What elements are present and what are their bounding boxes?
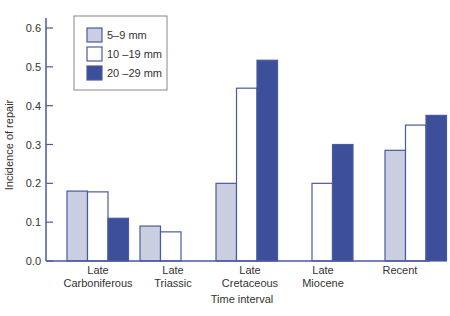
y-axis-title: Incidence of repair (3, 99, 15, 190)
y-tick-label: 0.4 (26, 100, 41, 112)
bar (406, 125, 427, 261)
y-tick-label: 0.0 (26, 255, 41, 267)
category-label: Late (239, 264, 260, 276)
y-tick-label: 0.5 (26, 61, 41, 73)
y-tick-label: 0.3 (26, 139, 41, 151)
bar (67, 191, 88, 261)
x-axis: LateCarboniferousLateTriassicLateCretace… (46, 261, 430, 289)
category-label: Late (87, 264, 108, 276)
category-label: Late (162, 264, 183, 276)
bar (385, 150, 406, 261)
bar (237, 88, 258, 261)
bar (108, 218, 129, 261)
legend-label: 20 –29 mm (107, 67, 162, 79)
x-axis-title: Time interval (211, 293, 274, 305)
category-label: Miocene (302, 277, 344, 289)
y-tick-label: 0.6 (26, 22, 41, 34)
category-label: Carboniferous (63, 277, 133, 289)
y-axis: 0.00.10.20.30.40.50.6 (26, 18, 53, 267)
legend-label: 10 –19 mm (107, 48, 162, 60)
legend-swatch (87, 47, 102, 61)
bar (216, 183, 237, 261)
bar (426, 115, 447, 261)
bar (312, 183, 333, 261)
legend-swatch (87, 28, 102, 42)
y-tick-label: 0.1 (26, 216, 41, 228)
bar (333, 145, 354, 262)
legend-label: 5–9 mm (107, 29, 147, 41)
bar (88, 192, 109, 261)
bar (140, 226, 161, 261)
bar (257, 60, 278, 261)
bar (161, 232, 182, 261)
category-label: Cretaceous (222, 277, 279, 289)
bar-chart: 0.00.10.20.30.40.50.6 LateCarboniferousL… (0, 0, 450, 316)
category-label: Triassic (154, 277, 192, 289)
legend-swatch (87, 66, 102, 80)
category-label: Recent (383, 264, 418, 276)
category-label: Late (312, 264, 333, 276)
legend: 5–9 mm10 –19 mm20 –29 mm (74, 16, 167, 90)
y-tick-label: 0.2 (26, 177, 41, 189)
